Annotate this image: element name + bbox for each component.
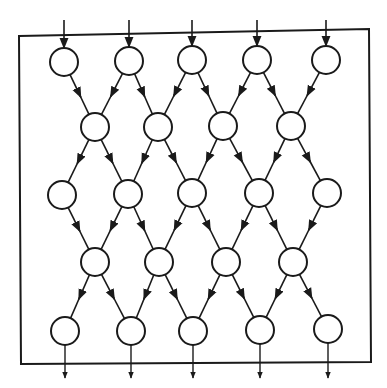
- edge-arrow: [68, 208, 80, 232]
- edge-line: [164, 94, 175, 115]
- processing-node: [48, 181, 76, 209]
- edge-line: [101, 228, 111, 249]
- edge-line: [232, 228, 242, 250]
- edge-line: [79, 229, 89, 250]
- edge-arrow: [134, 207, 145, 231]
- processing-node: [212, 248, 240, 276]
- edge-line: [136, 297, 145, 319]
- edge-arrow: [230, 138, 243, 162]
- edge-arrow: [135, 74, 145, 97]
- edge-line: [80, 95, 89, 115]
- edge-line: [101, 94, 112, 115]
- edge-arrow: [144, 275, 154, 299]
- processing-node: [178, 46, 206, 74]
- processing-node: [245, 179, 273, 207]
- processing-node: [117, 317, 145, 345]
- nodes: [48, 46, 342, 345]
- edge-arrow: [70, 75, 81, 98]
- edge-arrow: [239, 72, 251, 95]
- processing-node: [312, 46, 340, 74]
- edge-line: [71, 297, 80, 319]
- edge-arrow: [142, 140, 153, 163]
- edge-line: [175, 160, 186, 181]
- edge-line: [265, 160, 275, 181]
- edge-arrow: [298, 138, 311, 162]
- edge-arrow: [299, 274, 311, 298]
- edge-arrow: [198, 206, 210, 231]
- processing-node: [144, 113, 172, 141]
- edge-line: [209, 228, 220, 250]
- processing-node: [179, 317, 207, 345]
- processing-node: [114, 180, 142, 208]
- edge-line: [311, 296, 322, 317]
- edge-arrow: [309, 206, 321, 231]
- processing-node: [51, 317, 79, 345]
- lattice-diagram: [0, 0, 387, 388]
- edge-arrow: [263, 72, 275, 95]
- processing-node: [209, 112, 237, 140]
- edge-line: [144, 94, 153, 114]
- edge-arrow: [198, 73, 209, 96]
- processing-node: [145, 248, 173, 276]
- edge-arrow: [165, 275, 177, 300]
- edge-line: [266, 296, 276, 317]
- processing-node: [50, 48, 78, 76]
- edge-arrow: [241, 206, 253, 231]
- edge-line: [113, 297, 125, 319]
- edge-arrow: [174, 72, 186, 96]
- edge-line: [68, 161, 78, 182]
- edge-arrow: [265, 206, 277, 231]
- processing-node: [115, 47, 143, 75]
- edge-arrow: [274, 139, 285, 163]
- edge-line: [309, 160, 320, 181]
- edge-arrow: [101, 274, 114, 299]
- processing-node: [81, 113, 109, 141]
- edge-line: [243, 296, 254, 317]
- edge-arrow: [232, 275, 244, 299]
- edge-arrow: [79, 275, 90, 299]
- edge-line: [208, 93, 218, 113]
- edge-line: [276, 228, 287, 250]
- edge-arrow: [208, 275, 220, 300]
- processing-node: [246, 316, 274, 344]
- edge-line: [198, 160, 208, 181]
- processing-node: [243, 46, 271, 74]
- edge-line: [176, 297, 187, 319]
- edge-arrow: [101, 140, 113, 164]
- edge-arrow: [111, 73, 123, 96]
- edge-arrow: [275, 275, 287, 299]
- edge-line: [298, 93, 309, 114]
- edge-line: [299, 228, 310, 250]
- processing-node: [314, 315, 342, 343]
- edge-arrow: [164, 139, 176, 162]
- processing-node: [178, 179, 206, 207]
- edge-line: [134, 161, 143, 182]
- processing-node: [277, 112, 305, 140]
- edge-line: [229, 93, 240, 114]
- edge-line: [144, 228, 154, 249]
- edge-line: [241, 160, 252, 181]
- processing-node: [313, 179, 341, 207]
- edge-arrow: [174, 206, 186, 231]
- processing-node: [279, 248, 307, 276]
- edge-arrow: [307, 72, 319, 95]
- edge-line: [274, 93, 285, 114]
- edge-arrow: [110, 207, 122, 231]
- edge-arrow: [77, 140, 89, 164]
- edge-line: [199, 297, 209, 319]
- processing-node: [81, 248, 109, 276]
- edge-line: [112, 161, 122, 182]
- edge-line: [165, 228, 175, 250]
- diagram-canvas: [0, 0, 387, 388]
- edge-arrow: [206, 139, 217, 163]
